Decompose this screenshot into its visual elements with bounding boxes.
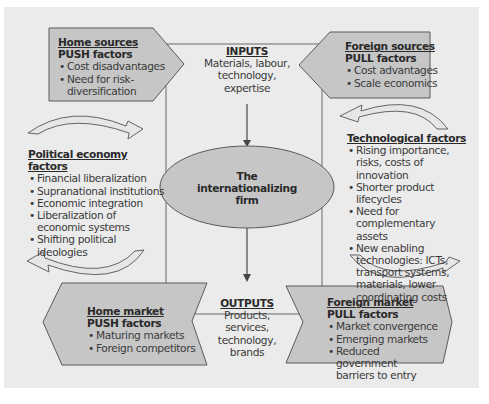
- technological-title: Technological factors: [347, 132, 479, 144]
- home-sources-box: Home sources PUSH factors Cost disadvant…: [58, 36, 165, 97]
- list-item: Cost advantages: [345, 64, 438, 76]
- list-item: New enabling technologies: ICTs, transpo…: [347, 242, 480, 303]
- list-item: Supranational institutions: [28, 185, 166, 197]
- political-economy-list: Financial liberalization Supranational i…: [28, 172, 166, 257]
- curved-arrow-top-left-icon: [28, 116, 143, 139]
- list-item: Foreign competitors: [87, 342, 195, 354]
- list-item: Maturing markets: [87, 329, 195, 341]
- outputs-title: OUTPUTS: [212, 297, 282, 309]
- list-item: Rising importance, risks, costs of innov…: [347, 144, 468, 181]
- foreign-sources-list: Cost advantages Scale economics: [345, 64, 438, 88]
- foreign-market-list: Market convergence Emerging markets Redu…: [327, 320, 438, 381]
- inputs-title: INPUTS: [195, 45, 299, 57]
- curved-arrow-top-right-icon: [340, 105, 448, 129]
- inputs-box: INPUTS Materials, labour, technology, ex…: [195, 45, 299, 94]
- technological-list: Rising importance, risks, costs of innov…: [347, 144, 479, 303]
- home-market-subtitle: PUSH factors: [87, 317, 195, 329]
- outputs-box: OUTPUTS Products, services, technology, …: [212, 297, 282, 358]
- foreign-market-box: Foreign market PULL factors Market conve…: [327, 296, 438, 381]
- list-item: Financial liberalization: [28, 172, 166, 184]
- home-market-box: Home market PUSH factors Maturing market…: [87, 305, 195, 354]
- list-item: Need for complementary assets: [347, 205, 468, 242]
- foreign-market-title: Foreign market: [327, 296, 438, 308]
- political-economy-box: Political economy factors Financial libe…: [28, 148, 166, 258]
- foreign-sources-subtitle: PULL factors: [345, 52, 438, 64]
- list-item: Scale economics: [345, 77, 438, 89]
- foreign-market-subtitle: PULL factors: [327, 308, 438, 320]
- list-item: Emerging markets: [327, 333, 438, 345]
- firm-label-line: internationalizing: [185, 182, 309, 194]
- list-item: Cost disadvantages: [58, 60, 165, 72]
- political-economy-title: Political economy factors: [28, 148, 166, 172]
- list-item: Market convergence: [327, 320, 438, 332]
- list-item: Economic integration: [28, 197, 166, 209]
- firm-label-line: The: [185, 170, 309, 182]
- firm-label: The internationalizing firm: [185, 170, 309, 207]
- foreign-sources-title: Foreign sources: [345, 40, 438, 52]
- list-item: Liberalization of economic systems: [28, 209, 166, 233]
- list-item: Shorter product lifecycles: [347, 181, 479, 205]
- outputs-arrowhead-icon: [243, 274, 251, 282]
- home-market-title: Home market: [87, 305, 195, 317]
- list-item: Reduced government barriers to entry: [327, 345, 428, 382]
- home-market-list: Maturing markets Foreign competitors: [87, 329, 195, 353]
- list-item: Need for risk-diversification: [58, 73, 159, 97]
- list-item: Shifting political ideologies: [28, 233, 125, 257]
- home-sources-subtitle: PUSH factors: [58, 48, 165, 60]
- foreign-sources-box: Foreign sources PULL factors Cost advant…: [345, 40, 438, 89]
- home-sources-list: Cost disadvantages Need for risk-diversi…: [58, 60, 165, 97]
- technological-box: Technological factors Rising importance,…: [347, 132, 479, 303]
- outputs-text: Products, services, technology, brands: [212, 309, 282, 358]
- home-sources-title: Home sources: [58, 36, 165, 48]
- inputs-text: Materials, labour, technology, expertise: [195, 57, 299, 94]
- firm-label-line: firm: [185, 194, 309, 206]
